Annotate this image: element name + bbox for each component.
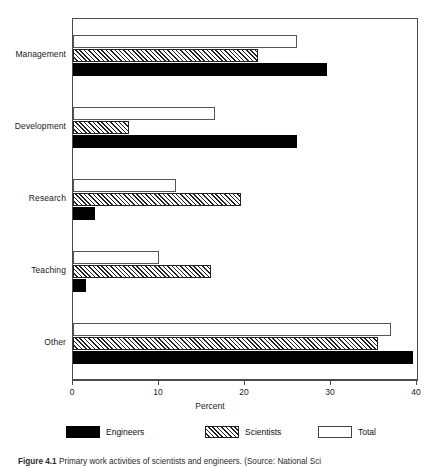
bar-other-total — [73, 323, 391, 336]
legend-label-total: Total — [358, 427, 376, 437]
bar-teaching-scientists — [73, 265, 211, 278]
legend-item-engineers: Engineers — [66, 423, 144, 441]
legend-swatch-scientists — [205, 426, 239, 438]
bar-research-engineers — [73, 207, 95, 220]
bar-management-scientists — [73, 49, 258, 62]
figure-caption-text: Primary work activities of scientists an… — [59, 457, 321, 466]
legend-label-engineers: Engineers — [106, 427, 144, 437]
x-tick-label-0: 0 — [70, 387, 75, 397]
bar-research-scientists — [73, 193, 241, 206]
x-tick-20 — [244, 380, 245, 385]
bar-teaching-engineers — [73, 279, 86, 292]
x-tick-30 — [330, 380, 331, 385]
legend-label-scientists: Scientists — [245, 427, 281, 437]
bar-other-scientists — [73, 337, 378, 350]
x-tick-40 — [416, 380, 417, 385]
bar-teaching-total — [73, 251, 159, 264]
x-tick-label-10: 10 — [153, 387, 162, 397]
x-tick-10 — [158, 380, 159, 385]
bar-management-total — [73, 35, 297, 48]
legend-swatch-engineers — [66, 426, 100, 438]
category-label-management: Management — [15, 49, 66, 59]
bar-development-total — [73, 107, 215, 120]
legend-item-total: Total — [318, 423, 376, 441]
x-tick-0 — [72, 380, 73, 385]
figure-number: Figure 4.1 — [18, 457, 57, 466]
legend-item-scientists: Scientists — [205, 423, 281, 441]
x-axis-title: Percent — [0, 401, 446, 411]
category-label-development: Development — [15, 121, 66, 131]
bar-research-total — [73, 179, 176, 192]
bar-management-engineers — [73, 63, 327, 76]
bar-development-scientists — [73, 121, 129, 134]
category-label-research: Research — [29, 193, 66, 203]
x-tick-label-40: 40 — [411, 387, 420, 397]
x-tick-label-30: 30 — [325, 387, 334, 397]
bars-container — [73, 19, 417, 379]
bar-other-engineers — [73, 351, 413, 364]
bar-development-engineers — [73, 135, 297, 148]
x-axis-line — [72, 380, 418, 381]
x-tick-label-20: 20 — [239, 387, 248, 397]
category-label-teaching: Teaching — [31, 265, 66, 275]
category-axis-labels: ManagementDevelopmentResearchTeachingOth… — [0, 18, 70, 380]
legend-swatch-total — [318, 426, 352, 438]
category-label-other: Other — [44, 337, 66, 347]
chart-legend: EngineersScientistsTotal — [0, 423, 446, 445]
x-axis-title-text: Percent — [195, 401, 224, 411]
figure-caption: Figure 4.1 Primary work activities of sc… — [18, 457, 438, 467]
